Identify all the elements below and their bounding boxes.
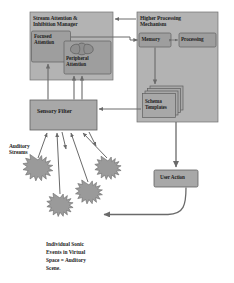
diagram-canvas: Stream Attention & Inhibition Manager Fo… <box>0 0 234 283</box>
burst1-to-filter-arrow <box>38 133 47 158</box>
burst4-to-filter-arrow <box>83 133 107 158</box>
burst3-to-filter-arrow <box>71 133 88 182</box>
filter-reject-arrow-2 <box>89 132 96 146</box>
diagram-caption: Individual Sonic Events in Virtual Space… <box>46 240 118 272</box>
processing-box <box>179 33 216 47</box>
schema-templates-stack <box>143 86 184 118</box>
sonic-event-burst-2 <box>47 193 73 216</box>
peripheral-cloud-icon <box>71 43 94 55</box>
memory-box <box>139 33 171 47</box>
sensory-filter-box <box>30 100 97 130</box>
sonic-event-burst-4 <box>95 156 121 179</box>
filter-reject-arrow-1 <box>62 132 66 149</box>
burst2-to-filter-arrow <box>57 133 60 194</box>
useraction-feedback-curve <box>104 188 186 215</box>
sonic-event-burst-1 <box>23 154 53 180</box>
schema-templates-front-card <box>143 94 176 118</box>
user-action-box <box>154 170 198 187</box>
sonic-event-burst-3 <box>75 180 102 204</box>
